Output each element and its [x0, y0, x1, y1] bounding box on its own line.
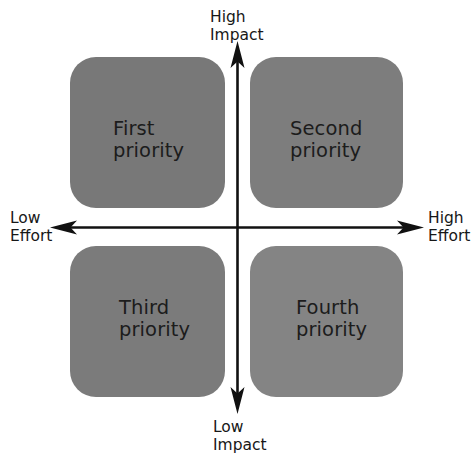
arrow-right-icon: [397, 221, 424, 235]
axis-label-low-impact: Low Impact: [213, 419, 267, 455]
quadrant-label-third: Third priority: [119, 297, 190, 341]
axis-label-high-impact: High Impact: [210, 9, 264, 45]
quadrant-label-fourth: Fourth priority: [296, 297, 367, 341]
axis-label-high-effort: High Effort: [428, 210, 470, 246]
arrow-up-icon: [231, 41, 245, 68]
quadrant-label-second: Second priority: [290, 118, 362, 162]
priority-matrix-diagram: First priority Second priority Third pri…: [0, 0, 475, 457]
axis-layer: [0, 0, 475, 457]
axis-label-low-effort: Low Effort: [10, 210, 52, 246]
quadrant-label-first: First priority: [113, 118, 184, 162]
arrow-left-icon: [50, 221, 77, 235]
arrow-down-icon: [231, 387, 245, 414]
